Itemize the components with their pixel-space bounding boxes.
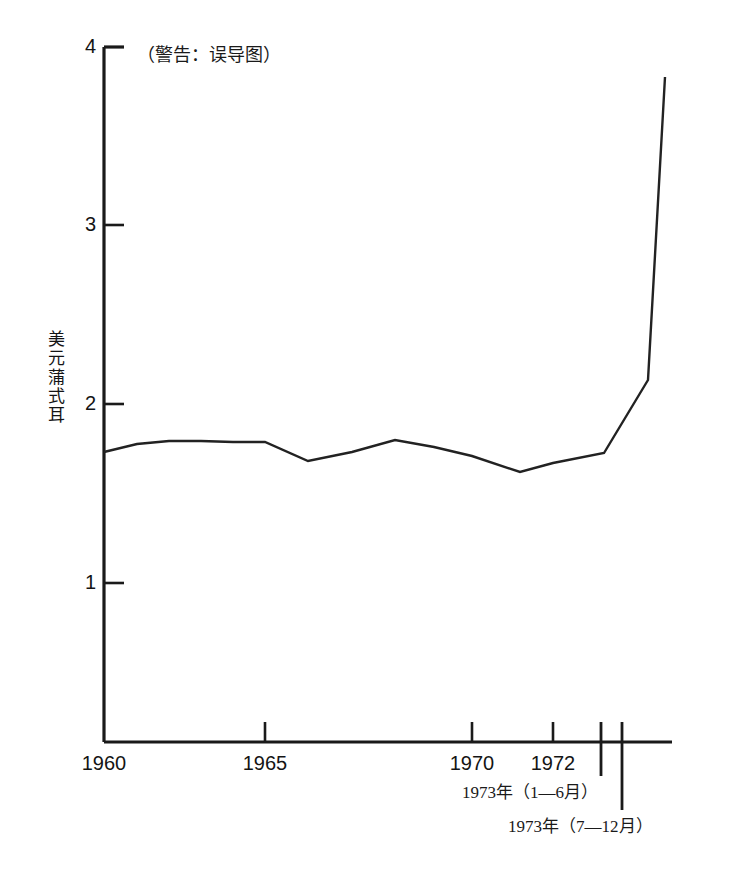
- y-tick-label-1: 1: [62, 571, 96, 594]
- y-tick-label-3: 3: [62, 213, 96, 236]
- period-label-1973-h2: 1973年（7—12月）: [508, 812, 653, 837]
- price-series-line: [104, 77, 665, 472]
- misleading-chart-warning: （警告：误导图）: [137, 40, 281, 66]
- y-tick-label-4: 4: [62, 35, 96, 58]
- chart-figure: 4 3 2 1 美元蒲式耳 （警告：误导图） 1960 1965 1970 19…: [0, 0, 729, 869]
- misleading-line-chart: [0, 0, 729, 869]
- x-tick-label-1970: 1970: [437, 752, 507, 775]
- period-label-1973-h1: 1973年（1—6月）: [462, 778, 598, 803]
- x-tick-label-1972: 1972: [518, 752, 588, 775]
- y-axis-title: 美元蒲式耳: [44, 330, 68, 425]
- x-tick-label-1965: 1965: [230, 752, 300, 775]
- x-tick-label-1960: 1960: [69, 752, 139, 775]
